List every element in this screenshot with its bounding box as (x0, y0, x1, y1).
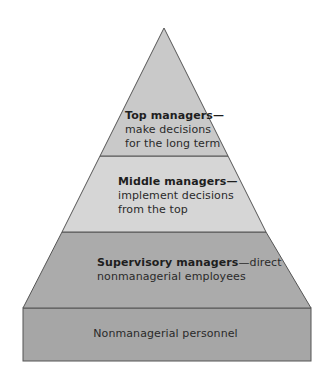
supervisory-managers-title: Supervisory managers (97, 256, 238, 269)
middle-managers-label: Middle managers— implement decisions fro… (118, 175, 258, 217)
supervisory-managers-description-2: nonmanagerial employees (97, 270, 287, 284)
middle-managers-description-2: from the top (118, 203, 258, 217)
top-managers-separator: — (213, 109, 224, 122)
top-managers-description-1: make decisions (125, 123, 235, 137)
middle-managers-separator: — (226, 175, 237, 188)
middle-managers-description-1: implement decisions (118, 189, 258, 203)
top-managers-description-2: for the long term (125, 137, 235, 151)
top-managers-title: Top managers (125, 109, 213, 122)
top-managers-label: Top managers— make decisions for the lon… (125, 109, 235, 151)
supervisory-managers-description-1: direct (250, 256, 282, 269)
supervisory-managers-separator: — (238, 256, 249, 269)
nonmanagerial-personnel-label: Nonmanagerial personnel (0, 327, 331, 341)
supervisory-managers-label: Supervisory managers—direct nonmanageria… (97, 256, 287, 284)
middle-managers-title: Middle managers (118, 175, 226, 188)
